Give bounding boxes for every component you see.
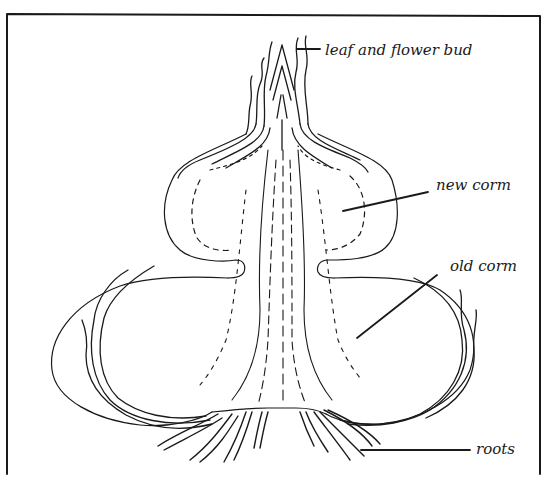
label-leaf-and-flower-bud: leaf and flower bud [325, 43, 472, 58]
diagram-drawing [0, 0, 543, 478]
corm-diagram: leaf and flower bud new corm old corm ro… [0, 0, 543, 478]
label-roots: roots [476, 442, 515, 457]
bud-drawing [246, 36, 308, 134]
label-old-corm: old corm [450, 259, 517, 274]
frame [7, 14, 540, 474]
old-corm-outline [52, 266, 477, 428]
leader-old-corm [357, 275, 437, 338]
label-new-corm: new corm [436, 178, 511, 193]
leader-new-corm [343, 192, 428, 211]
